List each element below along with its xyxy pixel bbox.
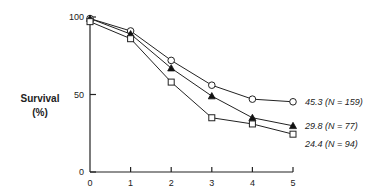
x-ticks: 012345	[87, 167, 295, 188]
square-marker	[87, 19, 93, 25]
square-marker	[209, 115, 215, 121]
circle-marker	[209, 82, 216, 89]
series-open-square	[87, 19, 296, 138]
series-open-circle	[87, 15, 297, 105]
x-tick-label: 3	[209, 178, 214, 188]
end-annotation: 45.3 (N = 159)	[305, 97, 363, 107]
annotations: 45.3 (N = 159)29.8 (N = 77)24.4 (N = 94)	[304, 97, 363, 149]
survival-chart: 050100 012345 Survival (%) 45.3 (N = 159…	[0, 0, 378, 194]
square-marker	[128, 36, 134, 42]
triangle-marker	[208, 93, 215, 99]
y-axis-label-line1: Survival	[21, 93, 60, 104]
x-tick-label: 4	[250, 178, 255, 188]
square-marker	[290, 131, 296, 137]
axes	[90, 17, 293, 172]
series-group	[87, 15, 297, 137]
triangle-marker	[249, 114, 256, 120]
x-tick-label: 1	[128, 178, 133, 188]
circle-marker	[168, 57, 175, 64]
end-annotation: 29.8 (N = 77)	[304, 121, 358, 131]
series-filled-triangle	[87, 15, 297, 129]
y-ticks: 050100	[69, 12, 96, 177]
x-tick-label: 0	[87, 178, 92, 188]
y-tick-label: 50	[74, 90, 84, 100]
x-tick-label: 2	[169, 178, 174, 188]
square-marker	[249, 121, 255, 127]
y-tick-label: 100	[69, 12, 84, 22]
x-tick-label: 5	[290, 178, 295, 188]
y-tick-label: 0	[79, 167, 84, 177]
end-annotation: 24.4 (N = 94)	[304, 139, 358, 149]
series-line	[90, 19, 293, 102]
square-marker	[168, 79, 174, 85]
circle-marker	[249, 96, 256, 103]
series-line	[90, 22, 293, 135]
circle-marker	[290, 98, 297, 105]
y-axis-label-line2: (%)	[32, 107, 48, 118]
